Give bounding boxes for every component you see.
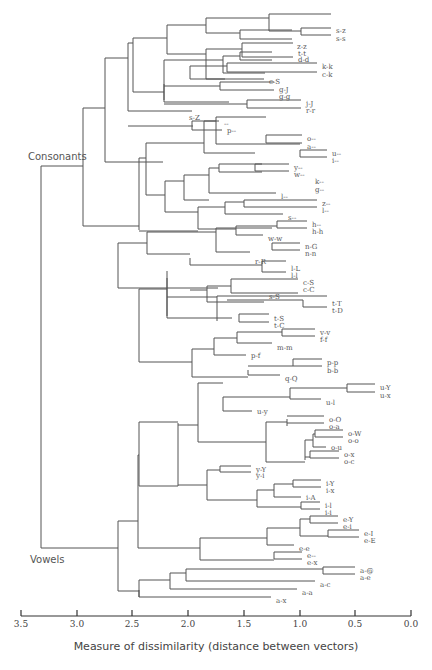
leaf-label: i-i: [325, 509, 333, 517]
leaf-label: o-a: [329, 423, 340, 431]
x-axis-label: Measure of dissimilarity (distance betwe…: [74, 640, 359, 653]
leaf-label: s--: [288, 214, 297, 222]
axis-tick-label: 2.0: [181, 619, 196, 629]
leaf-label: w--: [294, 171, 305, 179]
leaf-label: l-l: [291, 272, 299, 280]
leaf-label: o-c: [344, 458, 355, 466]
axis-ticks: 3.53.02.52.01.51.00.50.0: [14, 610, 419, 629]
leaf-label: s-Z: [189, 114, 200, 122]
leaf-label: s-s: [336, 35, 346, 43]
leaf-label: w-w: [268, 235, 282, 243]
leaf-label: e-x: [307, 559, 318, 567]
leaf-label: e-i: [343, 523, 353, 531]
leaf-label: u-l: [326, 399, 336, 407]
leaf-label: l--: [322, 207, 330, 215]
leaf-label: e-E: [364, 537, 376, 545]
axis-tick-label: 2.5: [125, 619, 140, 629]
axis-tick-label: 0.0: [404, 619, 419, 629]
leaf-label: a-e: [360, 574, 371, 582]
leaf-label: i-x: [326, 487, 335, 495]
leaf-label: m-m: [277, 344, 293, 352]
x-axis: 3.53.02.52.01.51.00.50.0 Measure of diss…: [14, 610, 419, 653]
leaf-label: s-S: [269, 293, 280, 301]
leaf-label: o--: [307, 135, 317, 143]
leaf-label: o-o: [348, 437, 359, 445]
leaf-label: a-c: [320, 581, 331, 589]
axis-tick-label: 0.5: [348, 619, 363, 629]
leaf-label: a-a: [302, 589, 313, 597]
leaf-label: b-b: [327, 367, 339, 375]
leaf-label: a-x: [276, 597, 287, 605]
dendrogram-tree: s-zs-sz-zt-td-dk-kc-kc-Sg-Jg-gj-Jr-rs-Z-…: [0, 0, 432, 670]
axis-tick-label: 1.0: [293, 619, 308, 629]
axis-tick-label: 3.5: [14, 619, 29, 629]
leaf-label: c-S: [269, 78, 280, 86]
leaf-label: c-C: [303, 286, 315, 294]
leaf-label: g--: [315, 186, 325, 194]
leaf-label: f-f: [320, 336, 329, 344]
leaf-label: p--: [227, 127, 237, 135]
leaf-label: h-h: [312, 228, 324, 236]
leaf-label: k--: [315, 178, 324, 186]
leaf-label: k-k: [322, 63, 333, 71]
leaf-label: p-f: [251, 352, 262, 360]
leaf-label: c-k: [322, 71, 333, 79]
leaf-label: u-y: [257, 408, 268, 416]
leaf-label: d-d: [298, 56, 310, 64]
leaf-label: n-n: [305, 250, 317, 258]
leaf-label: l--: [281, 193, 289, 201]
leaf-label: p-p: [327, 359, 339, 367]
group-labels: ConsonantsVowels: [28, 151, 87, 565]
dendrogram-figure: s-zs-sz-zt-td-dk-kc-kc-Sg-Jg-gj-Jr-rs-Z-…: [0, 0, 432, 670]
leaf-label: q-Q: [285, 375, 298, 383]
leaf-label: o-u: [331, 444, 343, 452]
leaf-label: y-i: [255, 472, 265, 480]
group-label-vowels: Vowels: [30, 554, 65, 565]
leaf-label: i-A: [306, 494, 317, 502]
leaf-label: i--: [332, 157, 340, 165]
leaf-label: t-D: [332, 307, 343, 315]
leaf-labels: s-zs-sz-zt-td-dk-kc-kc-Sg-Jg-gj-Jr-rs-Z-…: [189, 27, 391, 605]
leaf-label: t-C: [274, 322, 285, 330]
leaf-label: a--: [307, 143, 317, 151]
axis-tick-label: 3.0: [70, 619, 85, 629]
leaf-label: r-r: [306, 107, 316, 115]
leaf-label: g-g: [279, 93, 291, 101]
leaf-label: u-x: [380, 392, 391, 400]
leaf-label: r-R: [255, 258, 267, 266]
axis-tick-label: 1.5: [237, 619, 252, 629]
group-label-consonants: Consonants: [28, 151, 87, 162]
leaf-label: u-Y: [380, 384, 391, 392]
leaf-label: s-z: [336, 27, 346, 35]
